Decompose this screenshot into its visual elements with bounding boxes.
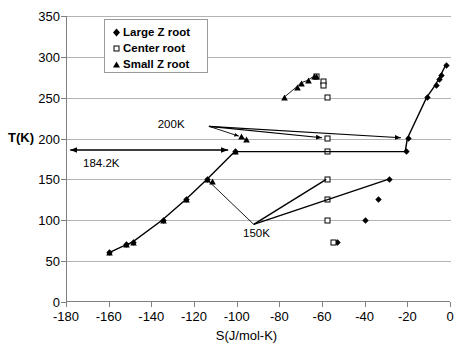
y-tick-mark xyxy=(61,261,66,262)
y-tick-label: 300 xyxy=(18,51,60,64)
filled-triangle-icon xyxy=(109,60,123,69)
x-tick-label: -60 xyxy=(300,310,344,323)
gridline-y xyxy=(67,179,451,180)
marker-filled-triangle xyxy=(313,73,320,80)
marker-filled-diamond xyxy=(438,72,445,79)
marker-filled-diamond xyxy=(405,135,412,142)
gridline-y xyxy=(67,261,451,262)
marker-filled-triangle xyxy=(130,239,137,246)
x-tick-mark xyxy=(322,302,323,307)
x-tick-mark xyxy=(66,302,67,307)
marker-open-square xyxy=(330,239,337,246)
marker-filled-triangle xyxy=(232,148,239,155)
y-tick-label: 250 xyxy=(18,92,60,105)
marker-open-square xyxy=(320,82,327,89)
open-square-icon xyxy=(109,44,123,53)
marker-filled-diamond xyxy=(375,196,382,203)
marker-filled-triangle xyxy=(106,249,113,256)
x-tick-mark xyxy=(194,302,195,307)
x-tick-mark xyxy=(407,302,408,307)
y-tick-label: 100 xyxy=(18,214,60,227)
y-tick-mark xyxy=(61,139,66,140)
x-tick-mark xyxy=(237,302,238,307)
marker-open-square xyxy=(324,176,331,183)
x-axis-title: S(J/mol-K) xyxy=(14,328,465,343)
legend-label: Small Z root xyxy=(123,58,189,70)
x-tick-label: -140 xyxy=(129,310,173,323)
annotation-150k: 150K xyxy=(243,227,270,239)
marker-open-square xyxy=(324,217,331,224)
marker-filled-triangle xyxy=(281,94,288,101)
x-tick-label: -120 xyxy=(172,310,216,323)
marker-filled-triangle xyxy=(243,136,250,143)
x-tick-label: -100 xyxy=(215,310,259,323)
chart-container: T(K) S(J/mol-K) 050100150200250300350-18… xyxy=(0,0,465,351)
legend: Large Z root Center root Small Z root xyxy=(104,19,208,73)
x-tick-mark xyxy=(279,302,280,307)
marker-filled-triangle xyxy=(160,217,167,224)
y-tick-mark xyxy=(61,98,66,99)
marker-filled-diamond xyxy=(403,148,410,155)
marker-open-square xyxy=(324,135,331,142)
legend-label: Large Z root xyxy=(123,26,190,38)
y-tick-mark xyxy=(61,57,66,58)
x-tick-mark xyxy=(365,302,366,307)
gridline-y xyxy=(67,139,451,140)
gridline-y xyxy=(67,98,451,99)
annotation-200k: 200K xyxy=(158,118,185,130)
marker-filled-diamond xyxy=(362,217,369,224)
marker-filled-diamond xyxy=(443,62,450,69)
y-tick-label: 350 xyxy=(18,10,60,23)
annotation-184-2k: 184.2K xyxy=(83,157,119,169)
x-tick-label: 0 xyxy=(428,310,465,323)
marker-filled-triangle xyxy=(209,178,216,185)
x-tick-mark xyxy=(450,302,451,307)
x-tick-label: -80 xyxy=(257,310,301,323)
marker-open-square xyxy=(324,94,331,101)
legend-item-center-root: Center root xyxy=(109,40,204,56)
x-tick-label: -160 xyxy=(87,310,131,323)
x-tick-mark xyxy=(109,302,110,307)
marker-filled-diamond xyxy=(386,176,393,183)
x-tick-mark xyxy=(151,302,152,307)
y-tick-label: 150 xyxy=(18,173,60,186)
marker-open-square xyxy=(324,196,331,203)
legend-label: Center root xyxy=(123,42,185,54)
filled-diamond-icon xyxy=(109,28,123,37)
marker-open-square xyxy=(324,148,331,155)
legend-item-small-z-root: Small Z root xyxy=(109,56,204,72)
y-tick-label: 0 xyxy=(18,296,60,309)
x-tick-label: -20 xyxy=(385,310,429,323)
y-tick-label: 200 xyxy=(18,133,60,146)
y-tick-mark xyxy=(61,220,66,221)
x-tick-label: -40 xyxy=(343,310,387,323)
y-tick-mark xyxy=(61,16,66,17)
marker-filled-diamond xyxy=(424,94,431,101)
legend-item-large-z-root: Large Z root xyxy=(109,24,204,40)
y-tick-mark xyxy=(61,179,66,180)
gridline-y xyxy=(67,220,451,221)
x-tick-label: -180 xyxy=(44,310,88,323)
gridline-y xyxy=(67,16,451,17)
y-tick-label: 50 xyxy=(18,255,60,268)
marker-filled-triangle xyxy=(183,196,190,203)
